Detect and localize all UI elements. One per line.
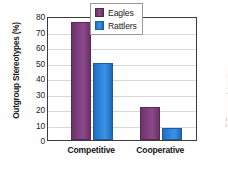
y-axis-tick-labels: 80706050403020100 xyxy=(24,13,45,141)
legend-label-eagles: Eagles xyxy=(108,8,134,18)
bar-eagles-cooperative xyxy=(140,107,160,140)
y-axis-title: Outgroup Stereotypes (%) xyxy=(12,11,21,131)
x-axis-label-cooperative: Cooperative xyxy=(120,145,200,155)
bar-rattlers-competitive xyxy=(93,63,113,141)
y-axis-tick-40: 40 xyxy=(36,75,45,83)
gridline xyxy=(48,49,196,50)
legend-swatch-eagles xyxy=(95,8,104,17)
bar-chart-figure: Outgroup Stereotypes (%) 807060504030201… xyxy=(0,0,227,176)
copyright-credit: © Cengage Learning xyxy=(224,59,228,139)
y-axis-tick-60: 60 xyxy=(36,44,45,52)
y-axis-tick-50: 50 xyxy=(36,60,45,68)
bar-rattlers-cooperative xyxy=(162,128,182,140)
legend-label-rattlers: Rattlers xyxy=(108,21,137,31)
bar-eagles-competitive xyxy=(71,22,91,140)
y-axis-tick-10: 10 xyxy=(36,122,45,130)
legend-swatch-rattlers xyxy=(95,21,104,30)
y-axis-tick-20: 20 xyxy=(36,106,45,114)
plot-area xyxy=(47,17,197,141)
x-axis-category-labels: CompetitiveCooperative xyxy=(47,145,197,161)
gridline xyxy=(48,111,196,112)
y-axis-tick-70: 70 xyxy=(36,29,45,37)
y-axis-tick-80: 80 xyxy=(36,13,45,21)
y-axis-tick-0: 0 xyxy=(41,137,45,145)
y-axis-tick-30: 30 xyxy=(36,91,45,99)
x-axis-label-competitive: Competitive xyxy=(51,145,131,155)
legend-item-rattlers: Rattlers xyxy=(95,20,137,31)
gridline xyxy=(48,96,196,97)
legend-item-eagles: Eagles xyxy=(95,7,137,18)
gridline xyxy=(48,65,196,66)
gridline xyxy=(48,80,196,81)
chart-legend: EaglesRattlers xyxy=(90,3,143,35)
